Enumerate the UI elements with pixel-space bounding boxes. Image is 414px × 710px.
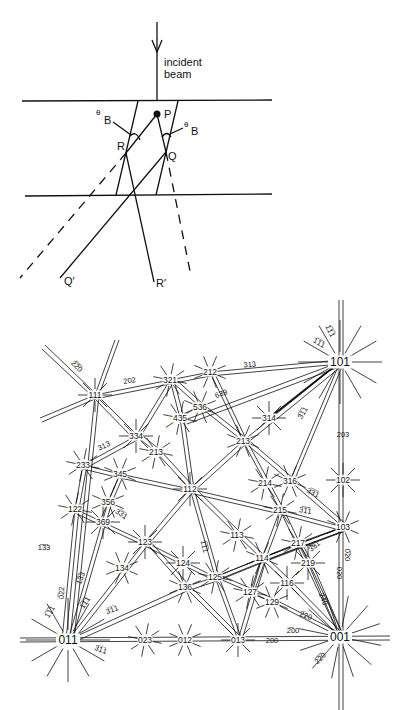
pole-spoke — [312, 567, 320, 575]
pole-spoke — [171, 567, 179, 575]
theta-arc-left — [130, 134, 140, 140]
pole-label: 116 — [280, 578, 294, 588]
pole-label: 213 — [236, 436, 250, 446]
point-R-prime-label: R′ — [156, 277, 166, 289]
pole-spoke — [245, 425, 249, 435]
ray-R-to-R-prime — [126, 153, 154, 282]
pole-spoke — [275, 587, 283, 595]
pole-label: 435 — [173, 413, 187, 423]
pole-label: 103 — [336, 522, 350, 532]
incident-label-line1: incident — [164, 56, 202, 68]
pole-spoke — [349, 624, 379, 634]
pole-spoke — [173, 385, 179, 394]
pole-spoke — [99, 399, 107, 407]
pole-spoke — [281, 493, 283, 504]
pole-spoke — [299, 526, 301, 537]
pole-spoke — [122, 458, 126, 468]
pole-label: 111 — [89, 390, 102, 400]
pole-spoke — [347, 606, 368, 630]
pole-spoke — [178, 493, 186, 501]
pole-label: 001 — [330, 630, 350, 644]
pole-spoke — [78, 514, 84, 523]
ray-Q-to-Q-prime — [60, 152, 166, 278]
pole-spoke — [273, 422, 281, 430]
pole-spoke — [102, 486, 106, 496]
pole-label: 124 — [176, 558, 190, 568]
pole-label: 334 — [129, 431, 143, 441]
pole-spoke — [242, 644, 250, 652]
pole-spoke — [171, 404, 177, 413]
pole-spoke — [345, 371, 361, 399]
band-label: 3̅1̅1 — [105, 603, 120, 616]
pole-spoke — [73, 649, 89, 677]
pole-spoke — [292, 465, 296, 475]
pole-spoke — [345, 533, 349, 543]
pole-spoke — [347, 644, 371, 665]
theta-symbol-right: θ — [184, 120, 189, 129]
band-label: 3̅3̅1 — [114, 507, 129, 522]
pole-label: 112 — [183, 484, 197, 494]
pole-spoke — [47, 649, 63, 677]
pole-spoke — [332, 647, 338, 678]
band-label: 2̅00 — [287, 626, 300, 635]
pole-label: 125 — [208, 572, 222, 582]
pole-spoke — [187, 646, 191, 656]
pole-label: 219 — [301, 558, 315, 568]
pole-spoke — [91, 526, 99, 534]
pole-spoke — [187, 624, 191, 634]
pole-spoke — [148, 645, 154, 654]
pole-spoke — [283, 487, 287, 497]
pole-spoke — [187, 567, 195, 575]
ray-dashed-left — [20, 153, 126, 278]
diffraction-figure: incident beam P R Q Q′ R′ θ B θ B — [0, 0, 414, 710]
pole-spoke — [238, 518, 240, 529]
pole-label: 314 — [262, 413, 276, 423]
pole-spoke — [194, 493, 202, 501]
band-label: 0̅22 — [57, 587, 66, 600]
pole-spoke — [177, 424, 179, 435]
band-label: 2̅40 — [317, 592, 330, 607]
pole-spoke — [257, 422, 265, 430]
pole-spoke — [262, 489, 264, 500]
pole-spoke — [76, 492, 78, 503]
pole-spoke — [110, 486, 114, 496]
pole-spoke — [187, 571, 191, 581]
band-label: 3̅1̅1 — [296, 405, 310, 420]
ray-diagram — [20, 22, 272, 282]
pole-spoke — [204, 356, 208, 366]
pole-spoke — [212, 356, 216, 366]
ray-dashed-right — [166, 152, 191, 276]
pole-label: 213 — [149, 447, 163, 457]
pole-spoke — [234, 541, 236, 552]
pole-spoke — [74, 451, 80, 460]
pole-spoke — [124, 440, 132, 448]
pole-label: 013 — [231, 635, 245, 645]
pole-spoke — [187, 593, 191, 603]
pole-spoke — [296, 567, 304, 575]
pole-label: 217 — [291, 538, 305, 548]
theta-leader-left — [113, 122, 131, 135]
incident-label-line2: beam — [164, 68, 192, 80]
pole-label: 113 — [230, 530, 244, 540]
pole-spoke — [142, 646, 144, 657]
point-Q-prime-label: Q′ — [64, 275, 75, 287]
band-label: 1̅3̅3 — [74, 571, 87, 586]
band-label: 3̅3̅1 — [305, 486, 320, 499]
pole-spoke — [331, 484, 339, 492]
band-label: 3̅1̅1 — [93, 643, 108, 656]
crystal-top-surface — [22, 100, 272, 101]
pole-spoke — [32, 619, 60, 635]
pole-spoke — [343, 646, 353, 676]
band-label: 313 — [243, 359, 256, 369]
pole-label: 102 — [336, 475, 350, 485]
pole-label: 114 — [255, 553, 269, 563]
pole-label: 369 — [96, 517, 110, 527]
pole-label: 123 — [138, 537, 152, 547]
pole-label: 356 — [101, 497, 115, 507]
pole-spoke — [203, 378, 207, 388]
pole-spoke — [202, 391, 206, 401]
pole-spoke — [32, 645, 60, 661]
pole-spoke — [116, 552, 120, 562]
band-label: 3̅1̅1 — [298, 505, 312, 516]
band-label: 020 — [335, 567, 344, 580]
